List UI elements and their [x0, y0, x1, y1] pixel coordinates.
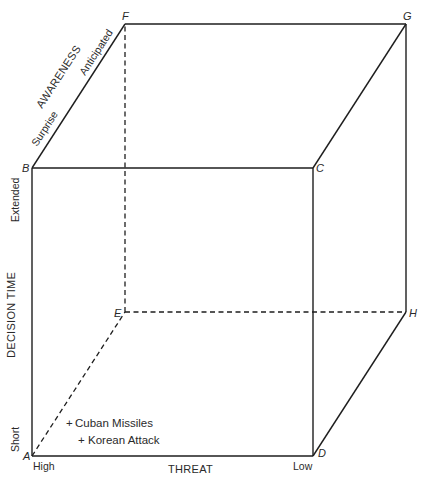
plus-marker-icon: +	[66, 417, 73, 429]
decision-time-axis: Short Extended DECISION TIME	[5, 177, 21, 452]
crisis-cube-diagram: A B C D E F G H High Low THREAT Short Ex…	[0, 0, 422, 480]
cube-hidden-edges	[32, 24, 406, 456]
vertex-label-E: E	[114, 307, 122, 319]
threat-axis: High Low THREAT	[33, 460, 313, 475]
vertex-labels: A B C D E F G H	[22, 10, 417, 462]
vertex-label-H: H	[409, 307, 417, 319]
threat-axis-title: THREAT	[168, 463, 213, 475]
decision-time-short-label: Short	[9, 427, 21, 452]
event-label: Korean Attack	[88, 434, 160, 446]
vertex-label-G: G	[403, 10, 412, 22]
awareness-surprise-label: Surprise	[29, 109, 60, 148]
threat-low-label: Low	[293, 460, 313, 472]
awareness-axis: Surprise Anticipated AWARENESS	[29, 27, 115, 148]
vertex-label-B: B	[22, 162, 29, 174]
event-label: Cuban Missiles	[75, 417, 153, 429]
event-korean-attack: + Korean Attack	[78, 434, 160, 446]
threat-high-label: High	[33, 460, 55, 472]
event-cuban-missiles: + Cuban Missiles	[66, 417, 153, 429]
event-markers: + Cuban Missiles + Korean Attack	[66, 417, 160, 446]
decision-time-axis-title: DECISION TIME	[5, 272, 17, 358]
vertex-label-C: C	[316, 162, 324, 174]
vertex-label-F: F	[122, 10, 130, 22]
plus-marker-icon: +	[78, 434, 85, 446]
vertex-label-A: A	[22, 450, 30, 462]
vertex-label-D: D	[318, 447, 326, 459]
decision-time-extended-label: Extended	[9, 177, 21, 222]
edge-DH	[313, 312, 406, 456]
cube-solid-edges	[32, 24, 406, 456]
edge-CG	[313, 24, 406, 168]
